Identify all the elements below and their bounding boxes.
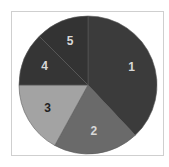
slice-label-5: 5: [67, 34, 74, 48]
slice-label-2: 2: [91, 124, 98, 138]
slice-label-1: 1: [128, 60, 135, 74]
slice-label-3: 3: [44, 101, 51, 115]
pie-chart: 12345: [0, 0, 169, 167]
slice-label-4: 4: [41, 59, 48, 73]
